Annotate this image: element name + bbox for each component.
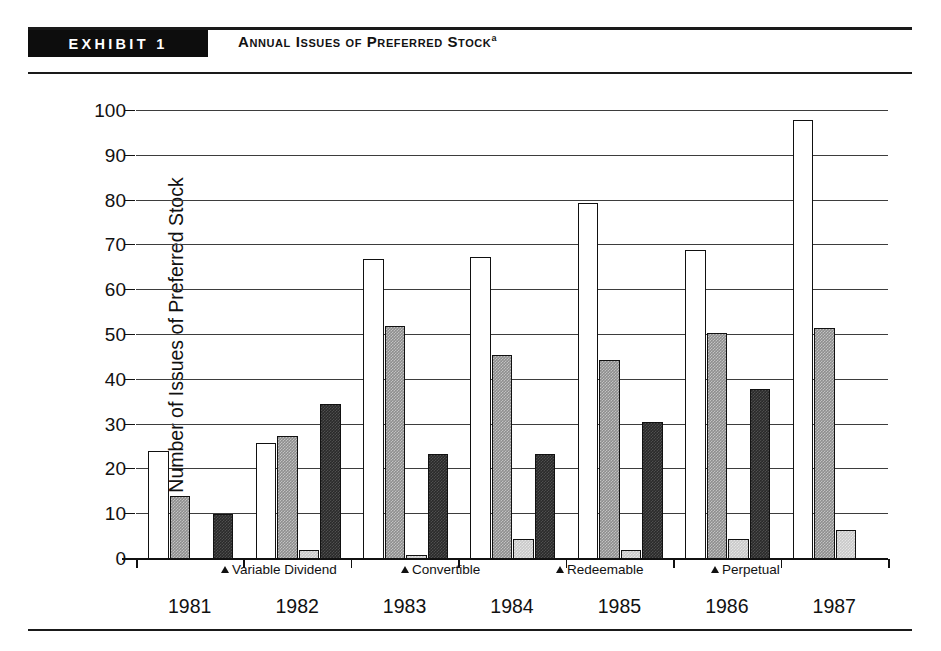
x-axis-label-1984: 1984 [490, 595, 533, 618]
bar-group [566, 111, 673, 559]
x-axis-label-1983: 1983 [383, 595, 426, 618]
bar-group [136, 111, 243, 559]
y-axis-tick-label: 70 [105, 234, 126, 256]
bar-variable-dividend-1982 [256, 443, 277, 559]
y-axis-tick-mark [125, 110, 135, 111]
x-axis-label-1985: 1985 [598, 595, 641, 618]
bar-variable-dividend-1985 [578, 203, 599, 559]
bar-group [458, 111, 565, 559]
bar-convertible-1986 [707, 333, 728, 559]
bar-perpetual-1987 [836, 530, 857, 559]
x-axis-tick [888, 559, 890, 568]
legend-item-label: Variable Dividend [232, 562, 337, 577]
y-axis-tick-mark [125, 334, 135, 335]
exhibit-title: Annual Issues of Preferred Stocka [238, 33, 496, 50]
y-axis-tick-label: 50 [105, 324, 126, 346]
bar-redeemable-1984 [535, 454, 556, 559]
legend-item-label: Redeemable [567, 562, 644, 577]
y-axis-tick-mark [125, 468, 135, 469]
x-axis-label-1982: 1982 [275, 595, 318, 618]
bar-redeemable-1986 [750, 389, 771, 559]
legend-item-convertible[interactable]: Convertible [401, 562, 480, 577]
bar-perpetual-1986 [728, 539, 749, 559]
plot-area: Number of Issues of Preferred Stock 0102… [136, 111, 888, 559]
triangle-marker-icon [711, 566, 719, 573]
triangle-marker-icon [556, 566, 564, 573]
legend-item-variable-dividend[interactable]: Variable Dividend [221, 562, 337, 577]
bar-redeemable-1982 [320, 404, 341, 559]
y-axis-tick-mark [125, 424, 135, 425]
legend-item-label: Convertible [412, 562, 480, 577]
bar-group [243, 111, 350, 559]
bar-variable-dividend-1983 [363, 259, 384, 559]
bar-variable-dividend-1981 [148, 451, 169, 559]
bar-series-group [136, 111, 888, 559]
bar-group [351, 111, 458, 559]
x-axis-baseline [122, 558, 888, 560]
x-axis-label-1987: 1987 [813, 595, 856, 618]
exhibit-title-text: Annual Issues of Preferred Stock [238, 33, 491, 50]
bar-convertible-1981 [170, 496, 191, 559]
bar-convertible-1984 [492, 355, 513, 559]
legend-item-redeemable[interactable]: Redeemable [556, 562, 644, 577]
y-axis-tick-label: 20 [105, 458, 126, 480]
header-bottom-rule [28, 72, 912, 74]
bar-variable-dividend-1984 [470, 257, 491, 559]
y-axis-tick-label: 30 [105, 414, 126, 436]
bar-redeemable-1983 [428, 454, 449, 559]
y-axis-tick-mark [125, 289, 135, 290]
y-axis-tick-mark [125, 379, 135, 380]
y-axis-tick-mark [125, 244, 135, 245]
legend-item-label: Perpetual [722, 562, 780, 577]
bar-convertible-1985 [599, 360, 620, 559]
bar-variable-dividend-1987 [793, 120, 814, 559]
x-axis-label-1986: 1986 [705, 595, 748, 618]
y-axis-tick-label: 40 [105, 369, 126, 391]
bar-group [673, 111, 780, 559]
legend-item-perpetual[interactable]: Perpetual [711, 562, 780, 577]
exhibit-title-footnote-marker: a [491, 33, 496, 43]
exhibit-page: EXHIBIT 1 Annual Issues of Preferred Sto… [0, 0, 941, 651]
y-axis-tick-label: 60 [105, 279, 126, 301]
footer-rule [28, 629, 912, 631]
bar-convertible-1983 [385, 326, 406, 559]
x-axis-label-1981: 1981 [168, 595, 211, 618]
bar-redeemable-1981 [213, 514, 234, 559]
exhibit-number-band: EXHIBIT 1 [28, 30, 208, 57]
bar-convertible-1987 [814, 328, 835, 559]
y-axis-tick-mark [125, 200, 135, 201]
triangle-marker-icon [401, 566, 409, 573]
bar-perpetual-1984 [513, 539, 534, 559]
bar-redeemable-1985 [642, 422, 663, 559]
y-axis-tick-label: 10 [105, 503, 126, 525]
bar-variable-dividend-1986 [685, 250, 706, 559]
triangle-marker-icon [221, 566, 229, 573]
chart-container: Number of Issues of Preferred Stock 0102… [28, 86, 912, 621]
y-axis-tick-label: 100 [94, 100, 126, 122]
chart-legend: Variable DividendConvertibleRedeemablePe… [136, 562, 888, 584]
y-axis-tick-mark [125, 155, 135, 156]
y-axis-tick-mark [125, 513, 135, 514]
bar-group [781, 111, 888, 559]
bar-convertible-1982 [277, 436, 298, 559]
y-axis-tick-label: 90 [105, 145, 126, 167]
exhibit-number-label: EXHIBIT 1 [28, 30, 208, 57]
y-axis-tick-label: 80 [105, 190, 126, 212]
